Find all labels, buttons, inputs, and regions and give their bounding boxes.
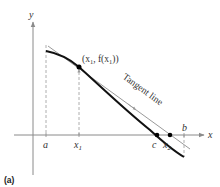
tick-label-x2: x2 bbox=[162, 139, 171, 152]
point-x1-fx1 bbox=[77, 65, 82, 70]
point-label: (x1, f(x1)) bbox=[82, 54, 119, 65]
tangent-arrow bbox=[128, 104, 136, 110]
figure-caption: (a) bbox=[4, 175, 15, 185]
point-x2 bbox=[168, 133, 173, 138]
tick-label-c: c bbox=[152, 139, 157, 150]
tick-label-a: a bbox=[43, 139, 48, 150]
newtons-method-diagram: y x a x1 c x2 b (x1, f(x1)) Tangent line… bbox=[0, 0, 220, 187]
point-c bbox=[155, 133, 160, 138]
x-axis-label: x bbox=[207, 129, 213, 140]
tangent-line-label: Tangent line bbox=[121, 72, 165, 108]
tick-label-x1: x1 bbox=[73, 139, 82, 152]
tick-label-b: b bbox=[182, 122, 187, 133]
y-axis-label: y bbox=[28, 9, 34, 20]
